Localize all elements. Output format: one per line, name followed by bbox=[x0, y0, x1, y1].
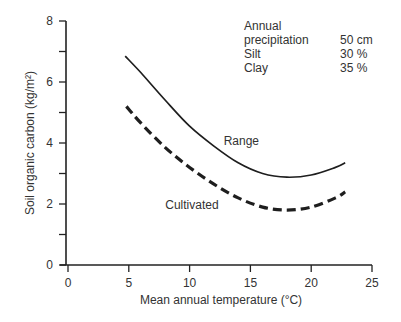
note-key: Clay bbox=[244, 61, 340, 75]
x-tick-label: 0 bbox=[65, 276, 72, 290]
y-tick-label: 0 bbox=[46, 258, 53, 272]
x-tick-label: 15 bbox=[244, 276, 258, 290]
note-row-precipitation: precipitation 50 cm bbox=[244, 33, 373, 47]
note-key: Annual bbox=[244, 19, 340, 33]
x-tick-label: 25 bbox=[365, 276, 379, 290]
y-tick-label: 8 bbox=[46, 14, 53, 28]
note-value: 50 cm bbox=[340, 33, 373, 47]
x-tick-label: 20 bbox=[305, 276, 319, 290]
series-line-cultivated bbox=[126, 106, 345, 210]
curve-label-cultivated: Cultivated bbox=[165, 198, 218, 212]
note-row-clay: Clay 35 % bbox=[244, 61, 373, 75]
x-axis-title: Mean annual temperature (°C) bbox=[140, 293, 302, 307]
note-key: precipitation bbox=[244, 33, 340, 47]
y-tick-label: 6 bbox=[46, 75, 53, 89]
x-tick-label: 10 bbox=[183, 276, 197, 290]
note-row-silt: Silt 30 % bbox=[244, 47, 373, 61]
note-key: Silt bbox=[244, 47, 340, 61]
note-value: 30 % bbox=[340, 47, 367, 61]
y-axis-title: Soil organic carbon (kg/m²) bbox=[23, 71, 37, 215]
site-conditions-note: Annual precipitation 50 cm Silt 30 % Cla… bbox=[244, 19, 373, 75]
note-value: 35 % bbox=[340, 61, 367, 75]
x-tick-label: 5 bbox=[125, 276, 132, 290]
note-row-annual: Annual bbox=[244, 19, 373, 33]
y-tick-label: 4 bbox=[46, 136, 53, 150]
y-tick-label: 2 bbox=[46, 197, 53, 211]
curve-label-range: Range bbox=[224, 134, 260, 148]
